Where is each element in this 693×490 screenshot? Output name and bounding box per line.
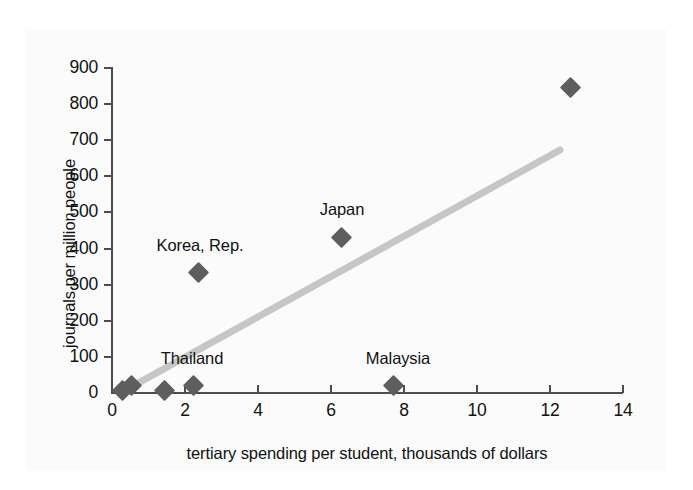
x-tick-12 (549, 385, 551, 393)
x-tick-10 (476, 385, 478, 393)
y-tick-label-600: 600 (48, 165, 98, 186)
y-axis-spine (111, 67, 113, 394)
y-tick-400 (104, 248, 112, 250)
y-tick-label-200: 200 (48, 310, 98, 331)
x-tick-label-6: 6 (311, 400, 351, 421)
y-tick-500 (104, 211, 112, 213)
point-label-thailand: Thailand (132, 349, 252, 368)
x-tick-label-12: 12 (530, 400, 570, 421)
y-tick-label-0: 0 (48, 382, 98, 403)
x-tick-label-2: 2 (165, 400, 205, 421)
point-label-malaysia: Malaysia (338, 349, 458, 368)
data-point-marker-high (560, 77, 581, 98)
point-label-korea: Korea, Rep. (130, 236, 270, 255)
y-tick-label-800: 800 (48, 93, 98, 114)
chart-figure: journals per million people tertiary spe… (0, 0, 693, 490)
y-tick-label-500: 500 (48, 201, 98, 222)
y-tick-label-100: 100 (48, 346, 98, 367)
data-point-marker (154, 380, 175, 401)
y-tick-600 (104, 175, 112, 177)
y-tick-label-300: 300 (48, 274, 98, 295)
y-tick-200 (104, 320, 112, 322)
x-tick-label-4: 4 (238, 400, 278, 421)
x-tick-label-8: 8 (384, 400, 424, 421)
y-tick-label-400: 400 (48, 238, 98, 259)
y-tick-800 (104, 103, 112, 105)
y-tick-300 (104, 284, 112, 286)
data-point-marker-japan (331, 227, 352, 248)
y-tick-900 (104, 67, 112, 69)
y-tick-700 (104, 139, 112, 141)
point-label-japan: Japan (282, 200, 402, 219)
plot-area: 900 800 700 600 500 400 300 200 100 0 0 … (0, 0, 693, 490)
x-tick-4 (257, 385, 259, 393)
y-tick-label-900: 900 (48, 57, 98, 78)
x-axis-spine (111, 392, 623, 394)
x-tick-label-14: 14 (603, 400, 643, 421)
x-tick-6 (330, 385, 332, 393)
data-point-marker-korea (188, 262, 209, 283)
x-tick-label-0: 0 (92, 400, 132, 421)
y-tick-label-700: 700 (48, 129, 98, 150)
y-tick-100 (104, 356, 112, 358)
x-tick-14 (622, 385, 624, 393)
x-tick-label-10: 10 (457, 400, 497, 421)
